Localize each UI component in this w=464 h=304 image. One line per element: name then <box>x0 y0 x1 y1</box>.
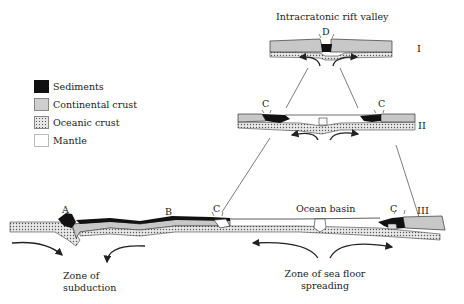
oceanic-crust-swatch <box>34 116 49 129</box>
guide-line <box>286 68 308 108</box>
stage-2-numeral: II <box>418 120 426 131</box>
marker-b: B <box>165 206 172 217</box>
ocean-basin-label: Ocean basin <box>296 203 355 214</box>
legend-item-oceanic-crust: Oceanic crust <box>34 115 120 129</box>
marker-c-right: C <box>378 98 385 109</box>
guide-line <box>222 138 270 212</box>
legend-label: Oceanic crust <box>53 117 120 128</box>
spreading-label-line1: Zone of sea floor <box>280 268 370 279</box>
marker-d: D <box>322 26 330 37</box>
rift-diagram-svg <box>0 0 464 304</box>
stage-3-numeral: III <box>417 205 429 216</box>
marker-c-right-stage3: C <box>390 203 397 214</box>
continental-crust-swatch <box>34 98 49 111</box>
sediments-swatch <box>34 80 49 93</box>
legend-item-continental-crust: Continental crust <box>34 97 137 111</box>
subduction-label-line2: subduction <box>63 282 116 293</box>
legend-label: Mantle <box>53 135 87 146</box>
stage-1-title: Intracratonic rift valley <box>276 11 388 22</box>
spreading-label-line2: spreading <box>280 280 370 291</box>
legend-label: Continental crust <box>53 99 137 110</box>
subduction-label-line1: Zone of <box>63 270 99 281</box>
mantle-swatch <box>34 134 49 147</box>
guide-line <box>340 68 358 108</box>
stage-1-numeral: I <box>417 43 421 54</box>
legend-label: Sediments <box>53 81 104 92</box>
marker-c-left-stage3: C <box>213 203 220 214</box>
stage-1-section <box>270 34 392 66</box>
guide-line <box>396 145 419 217</box>
legend-item-mantle: Mantle <box>34 133 87 147</box>
legend-item-sediments: Sediments <box>34 79 104 93</box>
diagram-canvas: Sediments Continental crust Oceanic crus… <box>0 0 464 304</box>
marker-c-left: C <box>262 98 269 109</box>
stage-2-section <box>238 110 415 140</box>
stage-3-section <box>10 210 445 262</box>
marker-a: A <box>62 204 69 215</box>
